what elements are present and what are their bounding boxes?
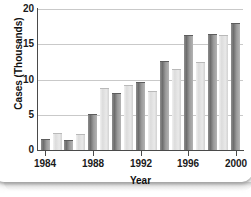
y-axis-line	[37, 8, 38, 151]
bar	[172, 69, 181, 150]
y-axis-title: Cases (Thousands)	[13, 9, 24, 119]
x-tick-label: 1988	[73, 158, 113, 169]
bar	[219, 35, 228, 150]
x-tick-label: 1992	[121, 158, 161, 169]
x-tick	[45, 151, 46, 156]
x-tick	[188, 151, 189, 156]
bar	[41, 139, 50, 150]
x-axis-title: Year	[38, 175, 243, 186]
bar	[64, 140, 73, 150]
bar	[148, 91, 157, 150]
x-tick-label: 2000	[216, 158, 251, 169]
bar	[208, 34, 217, 150]
x-tick	[236, 151, 237, 156]
bar	[53, 133, 62, 150]
bar	[136, 82, 145, 150]
plot-area	[38, 9, 243, 150]
x-tick-label: 1996	[168, 158, 208, 169]
bar	[88, 114, 97, 150]
bar	[160, 61, 169, 150]
gridline	[38, 9, 243, 10]
bar	[112, 93, 121, 150]
bar	[231, 23, 240, 150]
x-tick	[93, 151, 94, 156]
y-tick-label: 0	[4, 145, 34, 155]
bar	[100, 88, 109, 150]
bar	[124, 85, 133, 150]
bar	[184, 35, 193, 150]
x-tick	[141, 151, 142, 156]
x-tick-label: 1984	[25, 158, 65, 169]
bar	[76, 134, 85, 150]
bar	[196, 62, 205, 150]
chart-card: 05101520 Cases (Thousands) Year 19841988…	[0, 0, 251, 197]
